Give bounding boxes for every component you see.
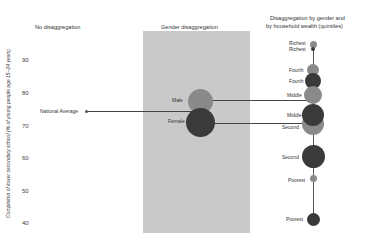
national-average-dot [85,110,88,113]
label-national-average: National Average [40,108,78,114]
label-poorest-female: Poorest [286,216,303,222]
male-to-wealth-line [200,100,312,101]
label-male: Male [172,97,183,103]
panel-title-wealth-line1: Disaggregation by gender and [270,15,345,21]
label-richest-female: Richest [289,46,306,52]
label-middle-female: Middle [287,112,302,118]
y-axis-label: Completion of lower secondary school (% … [5,58,11,218]
label-fourth-female: Fourth [289,78,303,84]
middle-female-bubble [302,104,324,126]
y-tick-90: 90 [22,57,29,63]
panel-title-gender: Gender disaggregation [161,24,218,30]
label-second-female: Second [282,154,299,160]
national-average-line [86,111,198,112]
y-tick-70: 70 [22,123,29,129]
poorest-male-bubble [310,175,317,182]
y-tick-50: 50 [22,188,29,194]
poorest-female-bubble [307,213,320,226]
label-second-male: Second [282,124,299,130]
label-poorest-male: Poorest [288,177,305,183]
middle-male-bubble [304,86,322,104]
label-middle-male: Middle [287,92,302,98]
y-tick-40: 40 [22,220,29,226]
panel-title-no-disaggregation: No disaggregation [35,24,80,30]
panel-title-wealth-line2: by household wealth (quintiles) [266,23,343,29]
second-female-bubble [302,145,325,168]
y-tick-60: 60 [22,155,29,161]
label-fourth-male: Fourth [289,67,303,73]
richest-female-bubble [311,47,315,51]
label-female: Female [168,118,185,124]
female-bubble [186,108,215,137]
y-tick-80: 80 [22,90,29,96]
